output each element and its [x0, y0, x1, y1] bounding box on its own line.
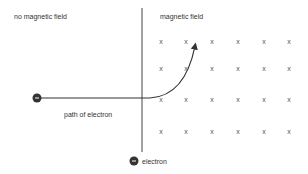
field-mark-x: x — [287, 38, 291, 45]
field-mark-x: x — [287, 128, 291, 135]
no-field-label: no magnetic field — [14, 13, 67, 20]
field-mark-x: x — [262, 65, 266, 72]
diagram-canvas — [0, 0, 308, 174]
field-mark-x: x — [159, 65, 163, 72]
field-mark-x: x — [287, 96, 291, 103]
field-mark-x: x — [236, 65, 240, 72]
field-mark-x: x — [210, 65, 214, 72]
field-mark-x: x — [159, 96, 163, 103]
field-mark-x: x — [159, 38, 163, 45]
field-mark-x: x — [236, 96, 240, 103]
field-mark-x: x — [236, 38, 240, 45]
field-mark-x: x — [210, 96, 214, 103]
electron-icon-left — [33, 94, 42, 103]
electron-icon-legend — [130, 157, 139, 166]
field-mark-x: x — [262, 128, 266, 135]
field-mark-x: x — [236, 128, 240, 135]
field-mark-x: x — [262, 96, 266, 103]
field-mark-x: x — [184, 38, 188, 45]
field-mark-x: x — [287, 65, 291, 72]
field-mark-x: x — [184, 128, 188, 135]
field-mark-x: x — [262, 38, 266, 45]
field-mark-x: x — [210, 38, 214, 45]
field-mark-x: x — [210, 128, 214, 135]
electron-path-arrow — [40, 46, 195, 98]
field-label: magnetic field — [160, 13, 203, 20]
field-mark-x: x — [159, 128, 163, 135]
field-mark-x: x — [184, 96, 188, 103]
field-mark-x: x — [184, 65, 188, 72]
path-label: path of electron — [64, 111, 112, 118]
electron-legend-label: electron — [142, 158, 167, 165]
